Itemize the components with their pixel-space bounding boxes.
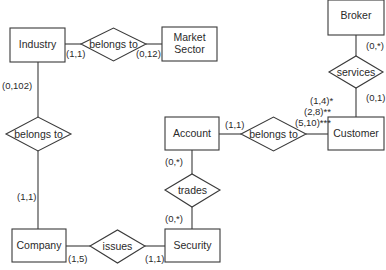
entity-market-sector[interactable]: Market Sector: [162, 27, 217, 61]
cardinality-market-sector-rel: (0,12): [136, 48, 161, 59]
entity-broker[interactable]: Broker: [328, 0, 384, 35]
svg-text:belongs to: belongs to: [14, 128, 63, 140]
svg-text:belongs to: belongs to: [249, 128, 298, 140]
svg-text:Market: Market: [173, 31, 205, 43]
cardinality-security-trades: (0,*): [165, 213, 183, 224]
entity-company[interactable]: Company: [12, 229, 66, 262]
cardinality-industry-company-rel: (0,102): [2, 80, 32, 91]
cardinality-customer-services: (0,1): [366, 92, 386, 103]
cardinality-company-issues: (1,5): [68, 253, 88, 264]
cardinality-company-industry-rel: (1,1): [17, 191, 37, 202]
svg-text:Customer: Customer: [333, 127, 379, 139]
svg-text:Company: Company: [17, 239, 63, 251]
cardinality-security-issues: (1,1): [145, 253, 165, 264]
entity-industry[interactable]: Industry: [10, 28, 65, 62]
entity-customer[interactable]: Customer: [328, 117, 384, 150]
relationship-account-security[interactable]: trades: [165, 174, 220, 207]
cardinality-account-trades: (0,*): [165, 156, 183, 167]
cardinality-broker-services: (0,*): [366, 40, 384, 51]
er-diagram: Industry Market Sector Broker Account Cu…: [0, 0, 386, 270]
entity-account[interactable]: Account: [165, 117, 219, 150]
relationship-company-industry[interactable]: belongs to: [6, 117, 71, 151]
svg-text:issues: issues: [103, 240, 133, 252]
svg-text:Broker: Broker: [341, 9, 372, 21]
svg-text:Security: Security: [174, 239, 213, 251]
cardinality-customer-account-rel-1: (1,4)*: [310, 95, 334, 106]
svg-text:Industry: Industry: [19, 38, 57, 50]
cardinality-customer-account-rel-2: (2,8)**: [304, 106, 331, 117]
entity-security[interactable]: Security: [165, 229, 220, 262]
svg-text:Account: Account: [173, 127, 211, 139]
svg-text:Sector: Sector: [174, 43, 205, 55]
svg-text:trades: trades: [178, 184, 207, 196]
svg-text:belongs to: belongs to: [89, 38, 138, 50]
cardinality-customer-account-rel-3: (5,10)***: [295, 117, 331, 128]
cardinality-account-customer-rel: (1,1): [225, 119, 245, 130]
svg-text:services: services: [337, 66, 376, 78]
relationship-broker-customer[interactable]: services: [329, 56, 383, 88]
relationship-company-security[interactable]: issues: [90, 230, 145, 263]
cardinality-industry-market-rel: (1,1): [66, 48, 86, 59]
